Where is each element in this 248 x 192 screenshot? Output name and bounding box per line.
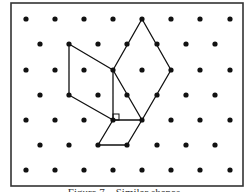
grid-dot (227, 117, 232, 122)
grid-dot (52, 167, 57, 172)
dot-grid-figure (0, 0, 248, 192)
left-quadrilateral (69, 44, 113, 120)
grid-dot (154, 142, 159, 147)
grid-dot (66, 142, 71, 147)
grid-dot (124, 142, 129, 147)
grid-dot (197, 167, 202, 172)
grid-dot (227, 167, 232, 172)
dots-layer (23, 16, 232, 172)
grid-dot (52, 67, 57, 72)
grid-dot (183, 142, 188, 147)
grid-dot (227, 67, 232, 72)
grid-dot (95, 41, 100, 46)
grid-dot (23, 167, 28, 172)
grid-dot (37, 41, 42, 46)
grid-dot (124, 92, 129, 97)
bottom-parallelogram (98, 120, 142, 145)
grid-dot (66, 41, 71, 46)
grid-dot (168, 167, 173, 172)
grid-dot (212, 41, 217, 46)
grid-dot (110, 67, 115, 72)
grid-dot (139, 67, 144, 72)
grid-dot (37, 92, 42, 97)
grid-dot (81, 167, 86, 172)
figure-caption: Figure 7 – Similar shapes (0, 186, 248, 192)
grid-dot (197, 16, 202, 21)
grid-dot (139, 117, 144, 122)
grid-dot (66, 92, 71, 97)
grid-dot (95, 142, 100, 147)
grid-dot (154, 92, 159, 97)
grid-dot (37, 142, 42, 147)
grid-dot (124, 41, 129, 46)
grid-dot (110, 167, 115, 172)
grid-dot (23, 117, 28, 122)
grid-dot (139, 167, 144, 172)
grid-dot (154, 41, 159, 46)
grid-dot (183, 41, 188, 46)
grid-dot (110, 16, 115, 21)
shapes-layer (69, 19, 171, 145)
grid-dot (52, 16, 57, 21)
grid-dot (168, 117, 173, 122)
grid-dot (23, 16, 28, 21)
grid-dot (168, 16, 173, 21)
grid-dot (183, 92, 188, 97)
grid-dot (197, 117, 202, 122)
grid-dot (227, 16, 232, 21)
grid-dot (52, 117, 57, 122)
grid-dot (139, 16, 144, 21)
grid-dot (212, 92, 217, 97)
grid-dot (168, 67, 173, 72)
grid-dot (81, 16, 86, 21)
grid-dot (23, 67, 28, 72)
grid-dot (81, 67, 86, 72)
grid-dot (212, 142, 217, 147)
grid-dot (197, 67, 202, 72)
grid-dot (95, 92, 100, 97)
grid-dot (81, 117, 86, 122)
